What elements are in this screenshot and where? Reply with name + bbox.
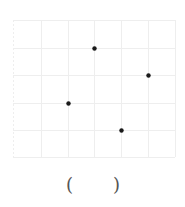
grid-point (66, 101, 70, 105)
answer-open-paren: ( (66, 175, 73, 195)
dot-grid-diagram (0, 0, 185, 170)
grid-point (119, 128, 123, 132)
answer-close-paren: ) (113, 175, 120, 195)
grid-point (92, 46, 96, 50)
grid-point (146, 73, 150, 77)
answer-blank[interactable] (76, 175, 114, 197)
